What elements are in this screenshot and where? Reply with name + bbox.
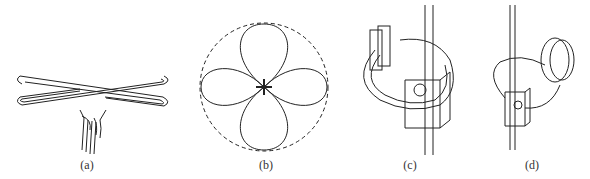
panel-a-label: (a) [67, 158, 107, 173]
panel-b-drawing [200, 23, 328, 151]
panel-d-label: (d) [512, 158, 552, 173]
panel-a-drawing [17, 76, 168, 154]
figure-canvas [0, 0, 590, 179]
panel-c-drawing [364, 5, 454, 155]
panel-b-label: (b) [246, 158, 286, 173]
panel-c-label: (c) [390, 158, 430, 173]
panel-d-drawing [494, 5, 574, 150]
